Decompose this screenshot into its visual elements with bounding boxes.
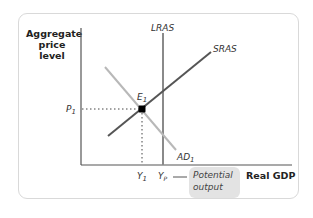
- y1-label: Y1: [137, 171, 147, 183]
- equilibrium-label: E1: [137, 92, 147, 104]
- callout-line-2: output: [193, 181, 236, 193]
- ad-as-diagram: LRAS AD1 SRAS E1 P1 Y1 YP: [0, 0, 313, 218]
- potential-output-callout: Potential output: [189, 167, 240, 198]
- equilibrium-point: [139, 106, 146, 113]
- callout-line-1: Potential: [193, 169, 236, 181]
- ad-label: AD1: [176, 152, 195, 164]
- yp-label: YP: [158, 171, 168, 182]
- x-axis-label: Real GDP: [246, 170, 295, 181]
- sras-label: SRAS: [213, 44, 237, 54]
- p1-label: P1: [66, 104, 76, 116]
- lras-label: LRAS: [151, 23, 174, 33]
- sras-curve: [108, 52, 211, 136]
